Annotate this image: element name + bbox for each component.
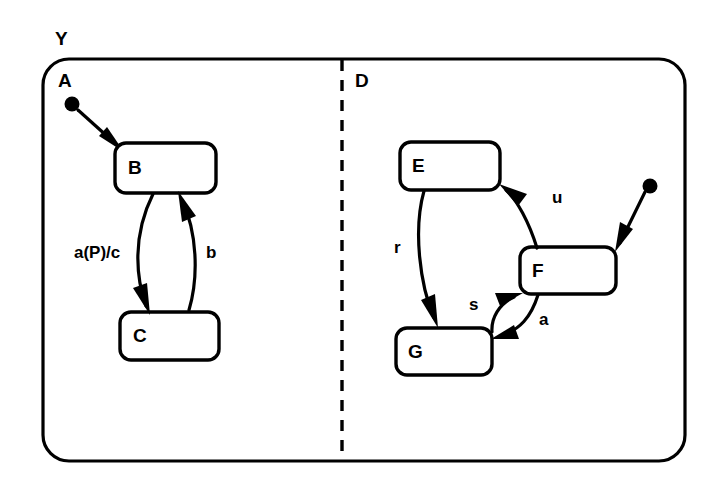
transition-label-a-p-c: a(P)/c [74,243,120,262]
arrowhead-g-to-f [495,293,523,306]
region-label-a: A [58,70,72,91]
arrowhead-f-to-g [491,325,519,339]
arrowhead-init-d-to-f [615,222,633,252]
arrowhead-c-to-b [178,191,196,222]
transition-label-s: s [469,295,478,314]
transition-label-a: a [539,310,549,329]
state-label-e: E [412,155,425,176]
statechart-canvas: B C a(P)/c b A D E F G r [0,0,719,483]
state-label-c: C [133,325,147,346]
arrowhead-f-to-e [499,184,527,206]
statechart-svg: B C a(P)/c b A D E F G r [0,0,719,483]
transition-label-r: r [394,238,401,257]
outer-state-label-y: Y [55,28,68,49]
state-label-g: G [408,341,423,362]
transition-label-b: b [206,243,216,262]
arrowhead-e-to-g [421,294,438,328]
state-label-b: B [128,157,142,178]
transition-label-u: u [552,188,562,207]
region-label-d: D [355,70,369,91]
arrowhead-b-to-c [133,283,150,315]
state-label-f: F [532,260,544,281]
